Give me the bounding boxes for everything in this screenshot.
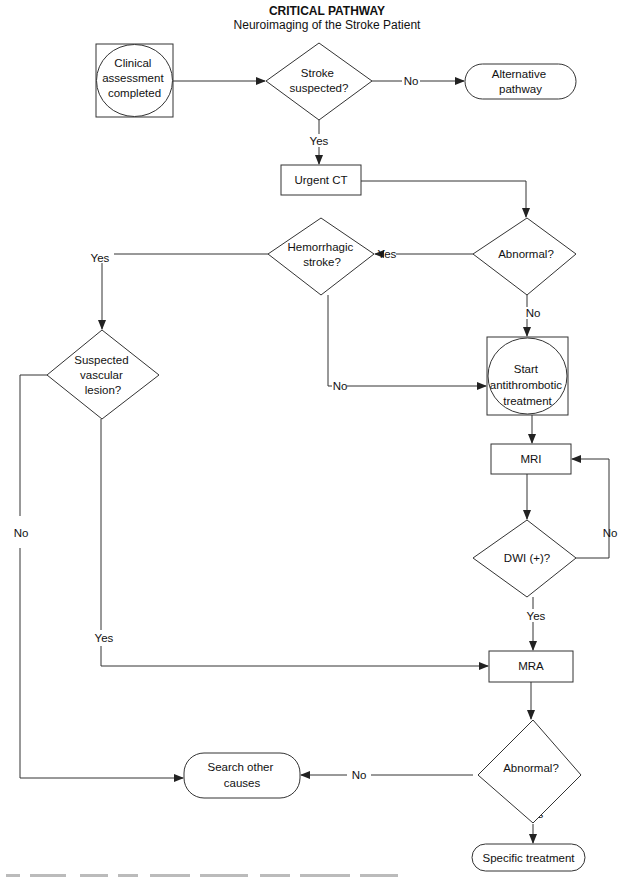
node-clinical-assessment: Clinical assessment completed xyxy=(96,44,173,117)
node-stroke-suspected: Stroke suspected? xyxy=(266,43,372,120)
diagram-title: CRITICAL PATHWAY xyxy=(269,4,385,18)
node-text-line: suspected? xyxy=(290,82,349,94)
node-mra: MRA xyxy=(489,651,573,682)
flowchart-canvas: CRITICAL PATHWAY Neuroimaging of the Str… xyxy=(0,0,620,877)
label-dwi-no: No xyxy=(603,527,618,539)
edge-ct-to-abnormal xyxy=(361,181,526,217)
node-text-line: Suspected xyxy=(74,354,128,366)
node-text-line: Abnormal? xyxy=(503,762,559,774)
node-mri: MRI xyxy=(491,444,571,474)
node-text-line: pathway xyxy=(499,83,542,95)
node-text-line: MRI xyxy=(520,453,541,465)
terminal-shape xyxy=(184,753,300,798)
edge-dwi-no xyxy=(572,459,609,558)
label-abn1-no: No xyxy=(526,307,541,319)
node-text-line: causes xyxy=(224,777,261,789)
node-search-other-causes: Search other causes xyxy=(184,753,300,798)
node-text-line: vascular xyxy=(80,369,123,381)
node-start-antithrombotic: Start antithrombotic treatment xyxy=(487,337,568,415)
node-text-line: assessment xyxy=(102,72,164,84)
label-hem-no: No xyxy=(333,380,348,392)
node-text-line: Clinical xyxy=(114,57,151,69)
node-text-line: Alternative xyxy=(492,68,546,80)
node-text-line: Stroke xyxy=(301,67,334,79)
node-text-line: lesion? xyxy=(85,384,121,396)
node-text-line: Hemorrhagic xyxy=(287,241,353,253)
label-vasc-yes: Yes xyxy=(95,632,114,644)
node-abnormal-mra: Abnormal? xyxy=(478,720,581,823)
node-text-line: antithrombotic xyxy=(490,379,562,391)
node-hemorrhagic-stroke: Hemorrhagic stroke? xyxy=(268,218,374,295)
label-stroke-no: No xyxy=(404,75,419,87)
node-specific-treatment: Specific treatment xyxy=(472,844,585,871)
label-dwi-yes: Yes xyxy=(527,610,546,622)
node-abnormal-ct: Abnormal? xyxy=(473,218,576,295)
node-text-line: DWI (+)? xyxy=(504,552,550,564)
node-text-line: Start xyxy=(514,363,539,375)
node-text-line: Search other xyxy=(207,761,273,773)
label-vasc-no: No xyxy=(14,527,29,539)
label-stroke-yes: Yes xyxy=(310,135,329,147)
node-text-line: stroke? xyxy=(303,256,341,268)
node-text-line: MRA xyxy=(518,660,544,672)
node-text-line: Specific treatment xyxy=(482,852,575,864)
label-hem-yes: Yes xyxy=(91,252,110,264)
node-text-line: Abnormal? xyxy=(498,248,554,260)
node-text-line: Urgent CT xyxy=(294,174,347,186)
node-alternative-pathway: Alternative pathway xyxy=(465,64,576,99)
label-abn2-no: No xyxy=(352,769,367,781)
edge-vasc-no-a xyxy=(20,375,47,516)
edge-vasc-yes-b xyxy=(101,646,488,666)
edge-hem-no-a xyxy=(328,295,332,386)
node-urgent-ct: Urgent CT xyxy=(281,165,361,195)
diagram-subtitle: Neuroimaging of the Stroke Patient xyxy=(234,18,421,32)
node-suspected-vascular-lesion: Suspected vascular lesion? xyxy=(47,330,159,419)
label-abn1-yes: Yes xyxy=(378,248,397,260)
node-text-line: completed xyxy=(108,87,161,99)
node-text-line: treatment xyxy=(503,395,552,407)
node-dwi-positive: DWI (+)? xyxy=(473,520,576,597)
